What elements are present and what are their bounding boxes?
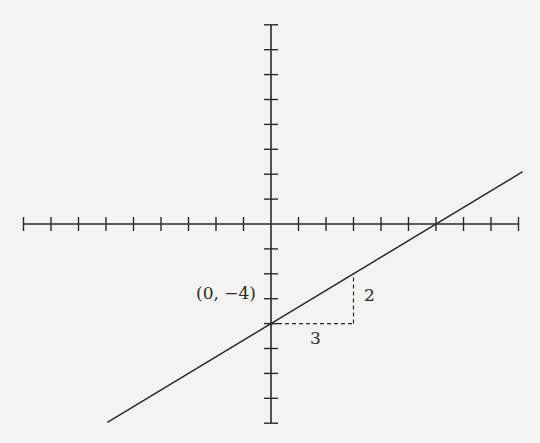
graph-line <box>107 172 522 423</box>
coordinate-plane <box>0 0 540 443</box>
y-intercept-label: (0, −4) <box>196 283 256 303</box>
graph-figure: (0, −4) 2 3 <box>0 0 540 443</box>
rise-label: 2 <box>364 285 375 305</box>
run-label: 3 <box>310 328 321 348</box>
